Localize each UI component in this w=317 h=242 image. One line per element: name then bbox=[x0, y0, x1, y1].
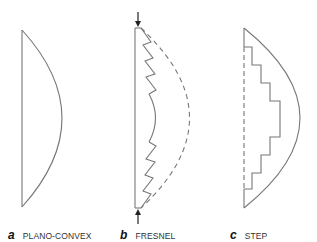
label-fresnel: bFRESNEL bbox=[120, 228, 175, 242]
label-name-c: STEP bbox=[245, 231, 268, 241]
plano-convex-lens bbox=[22, 30, 62, 207]
fresnel-lens bbox=[135, 28, 190, 208]
step-lens bbox=[244, 28, 300, 208]
label-letter-a: a bbox=[8, 228, 15, 242]
label-plano-convex: aPLANO-CONVEX bbox=[8, 228, 92, 242]
lens-diagram bbox=[0, 0, 317, 242]
label-letter-b: b bbox=[120, 228, 127, 242]
label-letter-c: c bbox=[230, 228, 237, 242]
label-step: cSTEP bbox=[230, 228, 267, 242]
label-name-b: FRESNEL bbox=[135, 231, 175, 241]
label-name-a: PLANO-CONVEX bbox=[23, 231, 92, 241]
